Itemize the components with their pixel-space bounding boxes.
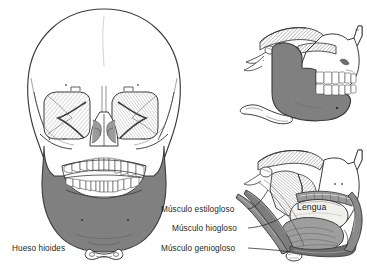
upper-teeth-lateral — [316, 72, 356, 84]
label-musculo-hiogloso: Músculo hiogloso — [172, 225, 237, 233]
label-musculo-geniogloso: Músculo geniogloso — [161, 245, 235, 253]
lower-teeth-lateral — [316, 84, 356, 95]
label-musculo-estilogloso: Músculo estilogloso — [161, 206, 234, 214]
anterior-skull-view — [14, 6, 194, 272]
label-hueso-hioides: Hueso hioides — [12, 245, 65, 253]
anatomy-figure: Hueso hioides Músculo estilogloso Múscul… — [0, 0, 367, 277]
label-lengua: Lengua — [297, 203, 326, 212]
lateral-bone-view — [236, 12, 367, 142]
